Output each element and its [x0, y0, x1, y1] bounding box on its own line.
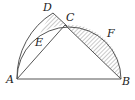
label-c: C	[66, 11, 75, 24]
label-a: A	[5, 73, 14, 86]
shaded-region-d	[40, 13, 65, 34]
label-b: B	[121, 75, 130, 88]
label-f: F	[106, 27, 115, 40]
label-e: E	[34, 36, 43, 49]
label-d: D	[42, 1, 52, 14]
geometry-diagram: A B C D E F	[0, 0, 135, 100]
